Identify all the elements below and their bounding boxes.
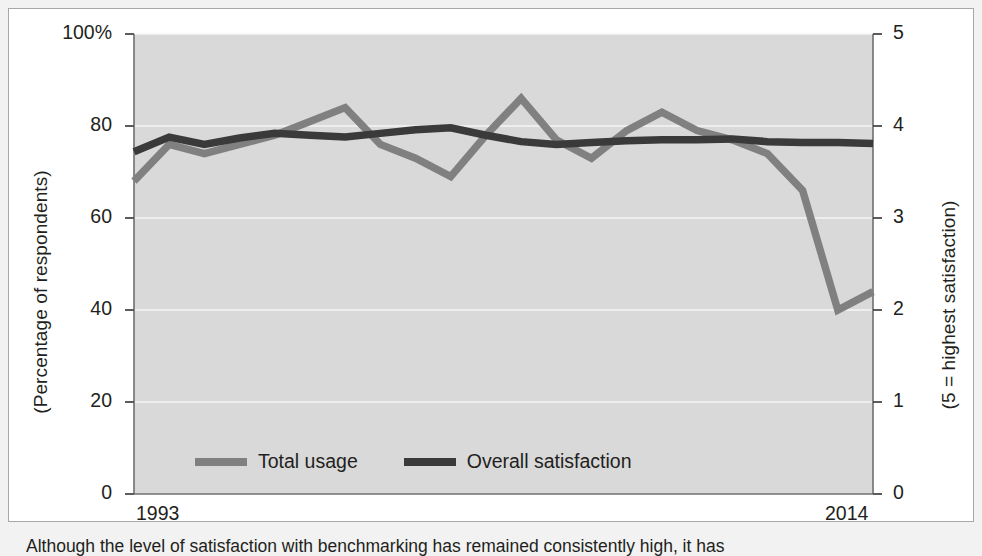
legend-label-overall-satisfaction: Overall satisfaction [467,450,632,473]
x-tick-label-end: 2014 [825,502,868,525]
y-tick-label-left: 60 [42,205,112,228]
figure-caption: Although the level of satisfaction with … [26,534,956,556]
right-axis-ticks [873,34,882,494]
legend-swatch-overall-satisfaction [404,458,456,466]
y-tick-label-right: 5 [893,21,953,44]
x-tick-label-start: 1993 [136,502,179,525]
y-tick-label-left: 80 [42,113,112,136]
y-tick-label-left: 100% [42,21,112,44]
y-axis-title-left: (Percentage of respondents) [30,142,52,442]
legend-swatch-total-usage [195,458,247,466]
chart-legend: Total usage Overall satisfaction [195,450,631,473]
left-axis-ticks [125,34,134,494]
legend-item-total-usage[interactable]: Total usage [195,450,358,473]
figure-page: 0 20 40 60 80 100% 0 1 2 3 4 5 1993 2014… [0,0,982,556]
figure-card: 0 20 40 60 80 100% 0 1 2 3 4 5 1993 2014… [8,8,974,522]
y-tick-label-left: 20 [42,389,112,412]
y-tick-label-left: 0 [42,481,112,504]
y-tick-label-right: 0 [893,481,953,504]
y-tick-label-right: 4 [893,113,953,136]
legend-label-total-usage: Total usage [258,450,358,473]
plot-area-background [134,34,873,494]
legend-item-overall-satisfaction[interactable]: Overall satisfaction [404,450,632,473]
y-axis-title-right: (5 = highest satisfaction) [938,145,960,465]
line-chart [9,9,975,523]
y-tick-label-left: 40 [42,297,112,320]
